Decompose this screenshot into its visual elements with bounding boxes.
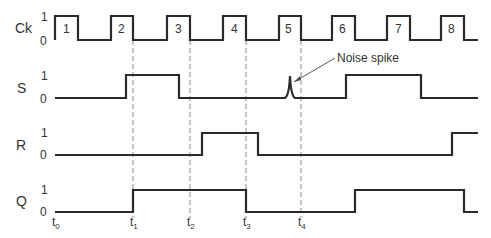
pulse-number: 6 — [339, 22, 346, 36]
noise-spike-label: Noise spike — [337, 51, 399, 65]
time-marker-t2: t2 — [187, 215, 195, 231]
pulse-number: 2 — [118, 22, 125, 36]
time-marker-t4: t4 — [298, 215, 306, 231]
q-waveform — [55, 190, 478, 212]
signal-label-q: Q — [16, 193, 27, 209]
pulse-number: 8 — [448, 22, 455, 36]
clock-pulse-numbers: 1 2 3 4 5 6 7 8 — [63, 22, 455, 36]
s-low-label: 0 — [40, 92, 47, 106]
pulse-number: 7 — [395, 22, 402, 36]
signal-label-ck: Ck — [15, 20, 33, 36]
arrow-head-icon — [294, 76, 301, 82]
q-high-label: 1 — [41, 183, 48, 197]
r-low-label: 0 — [40, 148, 47, 162]
ck-low-label: 0 — [40, 34, 47, 48]
s-waveform — [55, 75, 478, 98]
pulse-number: 4 — [231, 22, 238, 36]
s-high-label: 1 — [41, 69, 48, 83]
timing-diagram: Ck 1 0 S 1 0 R 1 0 Q 1 0 1 2 3 4 5 6 7 8… — [0, 0, 491, 238]
pulse-number: 3 — [175, 22, 182, 36]
time-guides — [133, 40, 301, 218]
r-waveform — [55, 133, 478, 155]
q-low-label: 0 — [40, 205, 47, 219]
signal-label-s: S — [17, 80, 26, 96]
ck-high-label: 1 — [41, 10, 48, 24]
pulse-number: 1 — [63, 22, 70, 36]
r-high-label: 1 — [41, 126, 48, 140]
time-marker-t0: t0 — [52, 215, 60, 231]
signal-label-r: R — [16, 137, 26, 153]
time-marker-t3: t3 — [243, 215, 251, 231]
pulse-number: 5 — [285, 22, 292, 36]
time-marker-t1: t1 — [130, 215, 138, 231]
time-markers: t0 t1 t2 t3 t4 — [52, 215, 306, 231]
